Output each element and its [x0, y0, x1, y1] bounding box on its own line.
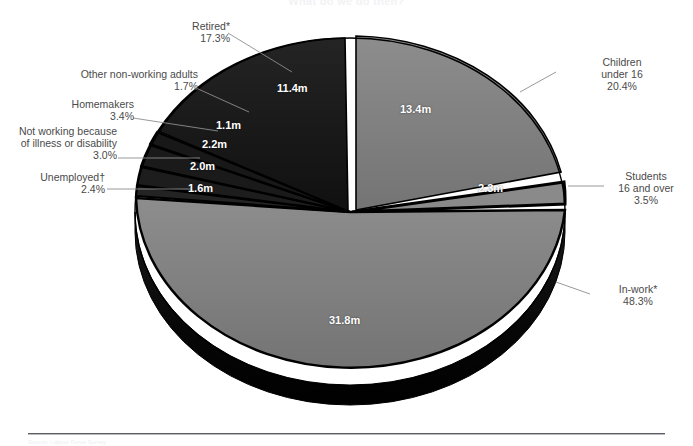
callout-in-work: In-work* 48.3% [592, 283, 684, 307]
callout-unemployed-pct: 2.4% [2, 183, 105, 195]
callout-inwork-pct: 48.3% [592, 295, 684, 307]
slice-value-retired: 11.4m [277, 82, 308, 94]
footer-note: Source: Labour Force Survey [28, 439, 665, 445]
callout-other-non-working-adults: Other non-working adults 1.7% [16, 68, 198, 92]
leader-children [520, 72, 556, 92]
callout-inwork-name: In-work* [619, 283, 658, 295]
callout-children-line1: Children [602, 56, 641, 68]
callout-students-line1: Students [625, 170, 666, 182]
callout-students-pct: 3.5% [600, 194, 692, 206]
leader-inwork [556, 282, 590, 294]
callout-children-line2: under 16 [562, 68, 682, 80]
callout-unemployed: Unemployed† 2.4% [2, 171, 105, 195]
callout-retired: Retired* 17.3% [100, 20, 230, 44]
chart-canvas: What do we do then? [0, 0, 693, 446]
callout-children-under-16: Children under 16 20.4% [562, 56, 682, 93]
callout-homemakers-pct: 3.4% [16, 110, 134, 122]
callout-other-name: Other non-working adults [81, 68, 198, 80]
slice-value-students: 2.3m [478, 182, 503, 194]
callout-students-16-and-over: Students 16 and over 3.5% [600, 170, 692, 207]
callout-retired-pct: 17.3% [100, 32, 230, 44]
slice-value-children: 13.4m [400, 103, 431, 115]
callout-retired-name: Retired* [192, 20, 230, 32]
callout-other-pct: 1.7% [16, 80, 198, 92]
callout-unemployed-name: Unemployed† [40, 171, 105, 183]
callout-not-working-illness-disability: Not working because of illness or disabi… [2, 125, 117, 162]
callout-children-pct: 20.4% [562, 80, 682, 92]
callout-illness-line2: of illness or disability [2, 137, 117, 149]
callout-students-line2: 16 and over [600, 182, 692, 194]
callout-illness-pct: 3.0% [2, 149, 117, 161]
slice-value-inwork: 31.8m [329, 314, 360, 326]
callout-homemakers: Homemakers 3.4% [16, 98, 134, 122]
footer-divider [28, 433, 665, 435]
callout-homemakers-name: Homemakers [72, 98, 134, 110]
slice-value-other: 1.1m [216, 119, 241, 131]
slice-value-homemakers: 2.2m [202, 138, 227, 150]
slice-value-illness: 2.0m [190, 160, 215, 172]
callout-illness-line1: Not working because [19, 125, 117, 137]
slice-value-unemployed: 1.6m [188, 182, 213, 194]
